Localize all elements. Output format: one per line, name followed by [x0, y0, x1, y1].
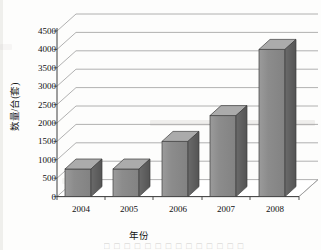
bar-2004: [65, 159, 102, 197]
y-tick-marks: [54, 31, 58, 197]
x-tick-label: 2005: [112, 205, 146, 214]
bar-2005: [113, 159, 150, 197]
x-tick-label: 2004: [64, 205, 98, 214]
bar-chart: 数量/台(套) 4500 4000 3500 3000 2500 2000 15…: [0, 0, 321, 250]
x-tick-label: 2006: [161, 205, 195, 214]
x-axis-label-text: 年份: [129, 231, 149, 241]
x-axis-label: 年份: [0, 228, 321, 242]
bar-2006: [162, 131, 199, 196]
bar-2008: [259, 39, 296, 196]
x-tick-label: 2008: [258, 205, 292, 214]
x-tick-label: 2007: [209, 205, 243, 214]
x-tick-marks: [57, 197, 299, 200]
bar-2007: [210, 106, 247, 197]
